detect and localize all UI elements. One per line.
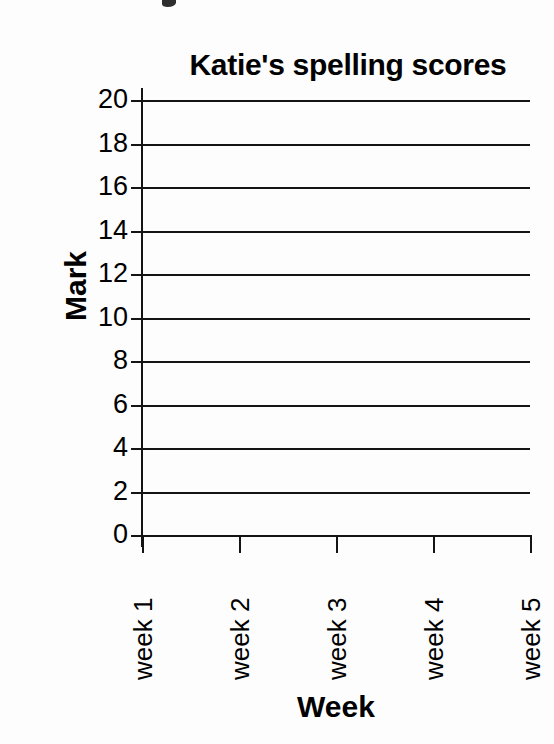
y-axis-tick-labels: 20181614121086420 [62,0,128,744]
chart-canvas: Katie's spelling scores Mark 20181614121… [0,0,554,744]
plot-area [142,100,530,535]
x-axis-tick-label: week 4 [419,560,449,680]
y-axis-tick-label: 0 [66,521,128,548]
y-axis-tick [131,535,142,537]
x-axis-tick [142,535,144,553]
y-axis-tick [131,361,142,363]
y-axis-tick [131,144,142,146]
x-axis-tick [336,535,338,553]
y-axis-tick-label: 4 [66,434,128,461]
gridline [142,448,530,450]
gridline [142,231,530,233]
gridline [142,492,530,494]
x-axis-tick-label: week 2 [225,560,255,680]
y-axis-tick [131,448,142,450]
chart-title: Katie's spelling scores [150,48,546,82]
y-axis-tick-label: 18 [66,130,128,157]
y-axis-tick [131,231,142,233]
x-axis-title: Week [142,690,530,724]
y-axis-tick-label: 16 [66,173,128,200]
x-axis-tick-label: week 1 [128,560,158,680]
x-axis-tick-label: week 3 [322,560,352,680]
y-axis-tick [131,318,142,320]
y-axis-tick [131,405,142,407]
y-axis-tick [131,492,142,494]
gridline [142,318,530,320]
y-axis-tick-label: 6 [66,391,128,418]
gridline [142,144,530,146]
gridline [142,405,530,407]
y-axis-tick [131,100,142,102]
x-axis-tick [239,535,241,553]
y-axis-tick-label: 12 [66,260,128,287]
x-axis-tick [530,535,532,553]
x-axis-tick-label: week 5 [516,560,546,680]
scan-artifact [162,0,176,7]
gridline [142,361,530,363]
y-axis-tick-label: 10 [66,304,128,331]
x-axis-tick [433,535,435,553]
y-axis-tick [131,187,142,189]
gridline [142,100,530,102]
gridline [142,187,530,189]
gridline [142,274,530,276]
y-axis-tick [131,274,142,276]
y-axis-tick-label: 2 [66,478,128,505]
y-axis-tick-label: 20 [66,86,128,113]
y-axis-tick-label: 8 [66,347,128,374]
y-axis-tick-label: 14 [66,217,128,244]
